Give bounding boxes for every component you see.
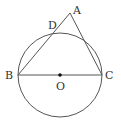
label-a: A: [72, 4, 82, 17]
label-c: C: [105, 69, 113, 82]
center-point-o: [58, 73, 62, 77]
segment-ba: [18, 13, 70, 75]
label-o: O: [56, 80, 65, 93]
segment-ac: [70, 13, 102, 75]
label-b: B: [5, 69, 13, 82]
label-d: D: [48, 19, 57, 32]
geometry-diagram: A D B C O: [0, 0, 121, 125]
